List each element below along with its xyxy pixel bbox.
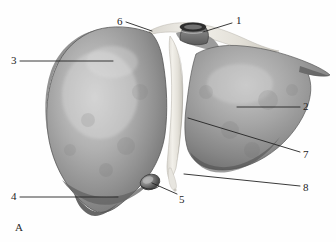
leader-line-8 <box>184 174 300 186</box>
ligamentum-teres-shape <box>168 168 176 190</box>
label-number-2[interactable]: 2 <box>303 101 309 112</box>
liver-illustration-canvas <box>0 0 336 242</box>
label-number-6[interactable]: 6 <box>117 16 123 27</box>
liver-anatomy-figure: 1 2 3 4 5 6 7 8 A <box>0 0 336 242</box>
label-number-5[interactable]: 5 <box>179 194 185 205</box>
inferior-vena-cava-shape <box>180 23 208 45</box>
label-number-7[interactable]: 7 <box>303 149 309 160</box>
liver-organ-group <box>45 23 330 216</box>
label-number-4[interactable]: 4 <box>11 191 17 202</box>
label-number-1[interactable]: 1 <box>236 15 242 26</box>
label-number-3[interactable]: 3 <box>11 55 17 66</box>
panel-letter-a: A <box>15 221 23 233</box>
label-number-8[interactable]: 8 <box>303 182 309 193</box>
ligamentum-teres-tip <box>173 188 176 191</box>
right-lobe-highlight-secondary <box>86 46 138 78</box>
